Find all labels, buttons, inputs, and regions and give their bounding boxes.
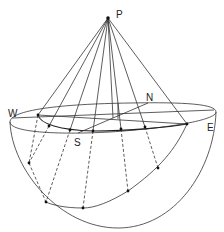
- label-n: N: [146, 92, 153, 103]
- bowl-outline: [10, 112, 216, 228]
- label-s: S: [74, 137, 81, 148]
- rays-from-p: [38, 18, 187, 131]
- label-w: W: [8, 108, 18, 119]
- label-p: P: [116, 9, 123, 20]
- bowl-path-curve: [46, 124, 187, 208]
- projection-diagram: P N W S E: [0, 0, 224, 232]
- bowl-dots: [28, 162, 160, 210]
- label-e: E: [207, 122, 214, 133]
- apex-point: [106, 16, 110, 20]
